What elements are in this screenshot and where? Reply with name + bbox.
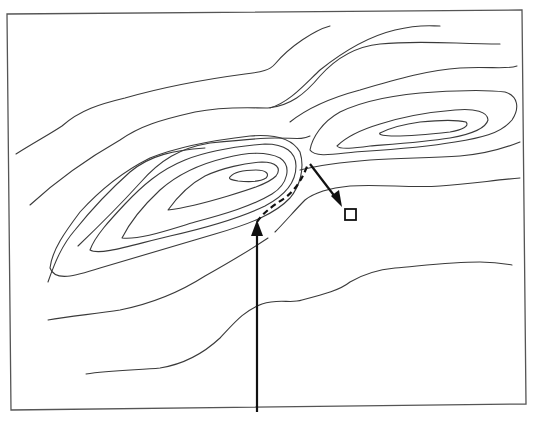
contour-line-left-tongue-2	[48, 148, 205, 282]
right-hill-contour-2	[337, 109, 488, 148]
target-square-marker-icon	[345, 209, 356, 220]
right-hill-summit-contour	[380, 121, 467, 137]
contour-line-second	[30, 42, 500, 205]
contour-line-lower-left-2	[86, 262, 512, 374]
contour-map-canvas	[0, 0, 539, 429]
contour-line-outer-top	[16, 26, 330, 154]
left-hill-summit-contour	[229, 170, 267, 182]
descent-arrow-shaft	[310, 164, 336, 198]
contour-line-right-lower-1	[300, 142, 520, 170]
left-hill-contour-4	[168, 162, 278, 210]
dashed-route-line	[257, 164, 308, 222]
contour-line-right-lower-2	[275, 178, 520, 232]
contour-line-left-tongue-1	[78, 136, 310, 246]
left-hill-contour-3	[122, 154, 287, 239]
approach-arrow-head-icon	[251, 220, 263, 236]
contour-line-right-upper	[270, 26, 440, 108]
contour-map-figure	[0, 0, 539, 429]
contour-line-right-hill-outer	[290, 66, 517, 122]
